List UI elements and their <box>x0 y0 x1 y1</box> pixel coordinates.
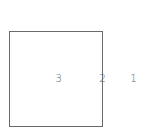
label-3: 3 <box>55 73 62 84</box>
label-1: 1 <box>130 73 137 84</box>
label-2: 2 <box>99 73 106 84</box>
